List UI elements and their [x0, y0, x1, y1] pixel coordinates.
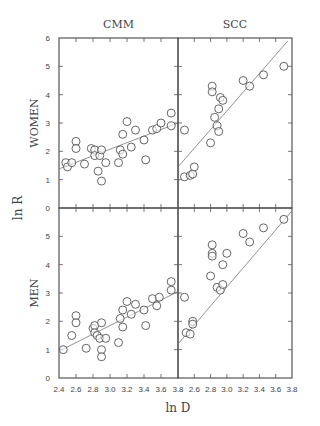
data-point: [119, 130, 127, 138]
x-tick-label: 2.8: [205, 385, 217, 394]
data-point: [246, 82, 254, 90]
data-point: [98, 146, 106, 154]
data-point: [186, 330, 194, 338]
data-point: [280, 62, 288, 70]
x-tick-label: 3.2: [238, 385, 250, 394]
data-point: [132, 300, 140, 308]
x-tick-label: 3.8: [172, 385, 184, 394]
data-point: [167, 278, 175, 286]
data-point: [167, 286, 175, 294]
data-point: [215, 105, 223, 113]
panel-women-scc: [178, 38, 292, 208]
data-point: [280, 215, 288, 223]
x-axis-label: ln D: [165, 401, 190, 415]
x-tick-label: 2.4: [53, 385, 65, 394]
data-point: [153, 302, 161, 310]
column-title-cmm: CMM: [103, 18, 134, 31]
data-point: [189, 320, 197, 328]
data-point: [207, 139, 215, 147]
panel-men-scc: [178, 208, 292, 378]
y-tick-label: 1: [46, 176, 51, 185]
data-point: [140, 306, 148, 314]
y-tick-label: 3: [46, 289, 51, 298]
data-point: [208, 241, 216, 249]
y-tick-label: 6: [46, 34, 51, 43]
data-point: [115, 339, 123, 347]
data-point: [94, 167, 102, 175]
panel-frame: [178, 38, 292, 208]
x-tick-label: 3.6: [155, 385, 167, 394]
y-tick-label: 3: [46, 119, 51, 128]
y-tick-label: 5: [46, 62, 51, 71]
y-tick-label: 5: [46, 232, 51, 241]
data-point: [59, 346, 67, 354]
data-point: [211, 113, 219, 121]
data-point: [115, 159, 123, 167]
data-point: [239, 230, 247, 238]
data-point: [102, 334, 110, 342]
data-point: [127, 143, 135, 151]
row-label-women: WOMEN: [28, 98, 41, 148]
data-point: [181, 293, 189, 301]
data-point: [140, 136, 148, 144]
data-point: [219, 281, 227, 289]
panel-men-cmm: [59, 208, 178, 378]
data-point: [82, 344, 90, 352]
x-tick-label: 3.8: [286, 385, 298, 394]
data-point: [239, 77, 247, 85]
x-tick-label: 3.6: [270, 385, 282, 394]
row-label-men: MEN: [28, 278, 41, 307]
data-point: [167, 122, 175, 130]
x-tick-label: 3.4: [138, 385, 150, 394]
data-point: [208, 252, 216, 260]
data-point: [219, 261, 227, 269]
data-point: [119, 306, 127, 314]
data-point: [142, 156, 150, 164]
x-tick-label: 3.2: [121, 385, 133, 394]
data-point: [127, 310, 135, 318]
y-tick-label: 1: [46, 346, 51, 355]
x-tick-label: 2.6: [70, 385, 82, 394]
data-point: [219, 96, 227, 104]
panel-women-cmm: [59, 38, 178, 208]
data-point: [119, 323, 127, 331]
x-tick-label: 3.0: [104, 385, 116, 394]
data-point: [72, 145, 80, 153]
y-tick-label: 0: [46, 374, 51, 383]
data-point: [155, 293, 163, 301]
data-point: [207, 272, 215, 280]
fit-line: [178, 41, 288, 167]
data-point: [81, 160, 89, 168]
data-point: [98, 353, 106, 361]
data-point: [260, 224, 268, 232]
y-tick-label: 2: [46, 147, 51, 156]
data-point: [98, 177, 106, 185]
data-point: [246, 238, 254, 246]
data-point: [123, 298, 131, 306]
x-tick-label: 3.4: [254, 385, 266, 394]
data-point: [167, 109, 175, 117]
data-point: [260, 71, 268, 79]
x-tick-label: 3.0: [221, 385, 233, 394]
y-tick-label: 4: [46, 261, 51, 270]
data-point: [208, 88, 216, 96]
column-title-scc: SCC: [223, 18, 247, 31]
data-point: [98, 319, 106, 327]
data-point: [215, 128, 223, 136]
data-point: [102, 159, 110, 167]
y-tick-label: 2: [46, 317, 51, 326]
data-point: [123, 118, 131, 126]
panel-frame: [178, 208, 292, 378]
y-tick-label: 4: [46, 91, 51, 100]
data-point: [142, 322, 150, 330]
data-point: [223, 249, 231, 257]
data-point: [68, 159, 76, 167]
data-point: [116, 315, 124, 323]
data-point: [68, 332, 76, 340]
data-point: [132, 126, 140, 134]
data-point: [119, 150, 127, 158]
data-point: [157, 119, 165, 127]
data-point: [72, 319, 80, 327]
x-tick-label: 2.6: [189, 385, 201, 394]
x-tick-label: 2.8: [87, 385, 99, 394]
